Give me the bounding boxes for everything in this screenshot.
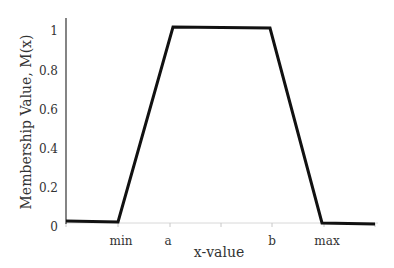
x-tick-a: a [164, 234, 171, 248]
y-tick-0.8: 0.8 [39, 64, 58, 78]
y-tick-0.6: 0.6 [39, 103, 58, 117]
membership-function-line [66, 27, 375, 224]
y-axis-label: Membership Value, M(x) [18, 35, 34, 210]
x-tick-b: b [268, 234, 276, 248]
x-tick-min: min [110, 234, 133, 248]
x-axis-label: x-value [194, 244, 244, 260]
y-tick-0.2: 0.2 [39, 181, 58, 195]
x-tick-max: max [314, 234, 340, 248]
y-tick-0: 0 [50, 220, 58, 234]
y-tick-0.4: 0.4 [39, 142, 58, 156]
y-axis-tick-labels: 0 0.2 0.4 0.6 0.8 1 [39, 24, 58, 234]
membership-function-chart: 0 0.2 0.4 0.6 0.8 1 min a b max x-value … [0, 0, 394, 268]
y-tick-1: 1 [50, 24, 58, 38]
